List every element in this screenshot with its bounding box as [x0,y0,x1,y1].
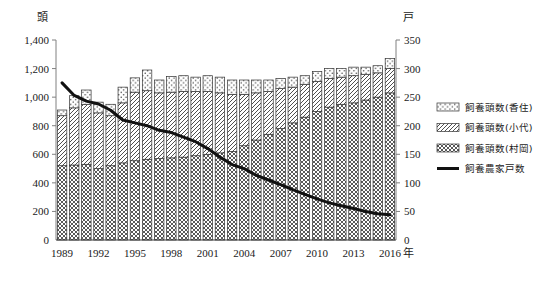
bar-segment [106,166,115,240]
legend-item: 飼養頭数(香住) [437,102,532,113]
bar-segment [361,67,370,74]
legend-item: 飼養頭数(小代) [437,122,532,133]
bar-segment [191,77,200,91]
bar-segment [227,80,236,94]
y-tick-label-left: 1,400 [24,34,49,46]
bar-segment [239,80,248,94]
bar-stack [179,76,188,240]
bar-segment [385,59,394,69]
bar-stack [69,96,78,240]
bar-stack [118,87,127,240]
legend-swatch [437,144,459,152]
y-tick-label-left: 400 [33,177,50,189]
bar-segment [154,80,163,93]
bar-segment [264,80,273,91]
bar-segment [142,159,151,240]
bar-segment [337,104,346,240]
bar-segment [264,91,273,134]
bar-segment [130,92,139,161]
bar-stack [288,77,297,240]
legend-label: 飼養頭数(村岡) [465,143,532,154]
bar-segment [57,166,66,240]
bar-segment [57,116,66,166]
x-tick-label: 2001 [197,247,219,259]
bar-segment [373,66,382,73]
y-axis-unit-left: 頭 [37,11,48,24]
x-tick-label: 2004 [233,247,256,259]
bar-segment [349,67,358,76]
chart-svg: 02004006008001,0001,2001,400050100150200… [0,0,556,286]
bar-stack [142,70,151,240]
bar-stack [239,80,248,240]
bar-segment [142,70,151,91]
bar-segment [106,116,115,166]
bar-segment [130,78,139,92]
bar-segment [215,77,224,93]
bar-segment [118,103,127,163]
bar-segment [385,93,394,240]
bar-stack [349,67,358,240]
y-axis-unit-right: 戸 [403,11,414,24]
x-axis-unit: 年 [403,246,414,260]
bar-segment [252,93,261,140]
y-tick-label-right: 100 [404,177,421,189]
bar-stack [130,78,139,240]
bar-segment [361,74,370,100]
legend-item: 飼養農家戸数 [437,163,525,174]
y-tick-label-left: 800 [33,120,50,132]
bar-segment [167,92,176,158]
bar-segment [349,103,358,240]
y-tick-label-right: 250 [404,91,421,103]
bar-stack [276,79,285,240]
x-tick-label: 1998 [160,247,183,259]
bar-segment [69,165,78,240]
bar-segment [203,154,212,240]
bar-segment [154,159,163,240]
bar-segment [118,163,127,240]
bar-stack [252,80,261,240]
bar-stack [191,77,200,240]
bar-segment [276,89,285,129]
bar-segment [312,81,321,111]
x-tick-label: 1989 [51,247,74,259]
y-tick-label-right: 150 [404,148,421,160]
bar-segment [324,107,333,240]
bar-segment [276,79,285,89]
bar-segment [312,71,321,81]
bar-stack [312,71,321,240]
bar-stack [57,110,66,240]
x-tick-label: 2013 [343,247,366,259]
bar-segment [264,134,273,240]
bar-segment [312,111,321,240]
y-tick-label-right: 350 [404,34,421,46]
legend-label: 飼養頭数(小代) [465,122,532,133]
bar-segment [154,93,163,159]
bar-segment [94,113,103,169]
x-tick-label: 2007 [270,247,293,259]
x-tick-label: 2016 [379,247,402,259]
bar-segment [203,91,212,154]
legend-swatch [437,103,459,111]
bar-stack [106,104,115,240]
bar-segment [82,164,91,240]
bar-stack [154,80,163,240]
bar-segment [349,76,358,103]
bar-stack [94,102,103,240]
bar-stack [337,69,346,240]
legend: 飼養頭数(香住)飼養頭数(小代)飼養頭数(村岡)飼養農家戸数 [437,102,532,175]
bar-segment [239,94,248,145]
bar-segment [179,157,188,240]
bar-segment [215,153,224,240]
x-tick-label: 1992 [88,247,110,259]
bar-segment [252,140,261,240]
bar-segment [252,80,261,93]
y-tick-label-right: 200 [404,120,421,132]
bar-segment [179,91,188,157]
legend-label: 飼養頭数(香住) [465,102,532,113]
bar-stack [300,76,309,240]
chart-container: 02004006008001,0001,2001,400050100150200… [0,0,556,286]
bar-segment [300,84,309,117]
bar-segment [167,76,176,92]
bar-stack [385,59,394,240]
bar-segment [69,108,78,165]
